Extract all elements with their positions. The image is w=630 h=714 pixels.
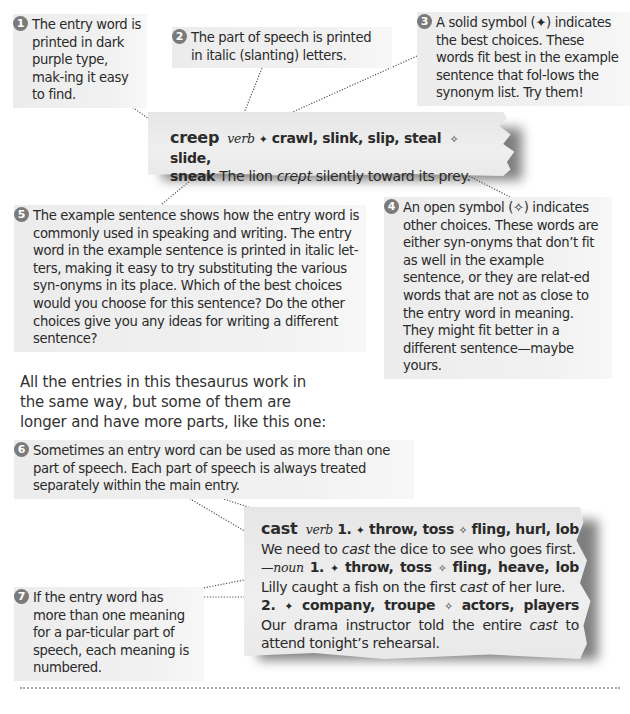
example-italic-word: cast: [342, 541, 370, 557]
part-of-speech: —noun: [261, 560, 304, 575]
sense-noun-1: —noun 1. ✦ throw, toss ✧ fling, heave, l…: [261, 558, 579, 596]
best-choices: throw, toss: [369, 521, 454, 537]
headword: creep: [170, 128, 219, 147]
solid-diamond-icon: ✦: [356, 524, 365, 537]
sense-number: 1.: [310, 559, 324, 575]
open-diamond-icon: ✧: [458, 524, 467, 537]
example-pre: The lion: [219, 168, 272, 184]
sense-verb-1: cast verb 1. ✦ throw, toss ✧ fling, hurl…: [261, 520, 579, 558]
number-badge-6: 6: [14, 442, 29, 457]
other-choices-cont: sneak: [170, 168, 215, 184]
number-badge-4: 4: [384, 199, 399, 214]
part-of-speech: verb: [306, 522, 333, 537]
other-choices: slide,: [170, 150, 211, 166]
callout-4: 4 An open symbol (✧) indicates other cho…: [384, 197, 612, 379]
number-badge-5: 5: [14, 207, 29, 222]
headword: cast: [261, 519, 297, 538]
solid-diamond-icon: ✦: [330, 562, 339, 575]
callout-2-text: The part of speech is printed in italic …: [172, 29, 386, 64]
number-badge-2: 2: [172, 29, 187, 44]
part-of-speech: verb: [227, 131, 254, 146]
number-badge-3: 3: [417, 14, 432, 29]
callout-5-text: The example sentence shows how the entry…: [14, 207, 360, 348]
other-choices: fling, heave, lob: [453, 559, 579, 575]
other-choices: actors, players: [462, 597, 579, 613]
callout-6: 6 Sometimes an entry word can be used as…: [14, 440, 414, 499]
example-post: silently toward its prey.: [316, 168, 471, 184]
dotted-divider: [20, 687, 620, 689]
open-diamond-icon: ✧: [450, 133, 459, 146]
callout-3-text: A solid symbol (✦) indicates the best ch…: [417, 14, 624, 102]
callout-4-text: An open symbol (✧) indicates other choic…: [384, 199, 606, 375]
number-badge-1: 1: [13, 16, 28, 31]
solid-diamond-icon: ✦: [284, 600, 293, 613]
example-pre: We need to: [261, 541, 338, 557]
example-post: of her lure.: [492, 579, 565, 595]
other-choices: fling, hurl, lob: [472, 521, 579, 537]
callout-1-text: The entry word is printed in dark purple…: [13, 16, 141, 104]
callout-5: 5 The example sentence shows how the ent…: [14, 205, 366, 352]
sense-number: 1.: [337, 521, 351, 537]
entry-creep: creep verb ✦ crawl, slink, slip, steal ✧…: [170, 129, 490, 185]
example-italic-word: crept: [277, 168, 312, 184]
number-badge-7: 7: [14, 589, 29, 604]
sense-noun-2: 2. ✦ company, troupe ✧ actors, players O…: [261, 596, 579, 652]
open-diamond-icon: ✧: [444, 600, 453, 613]
example-italic-word: cast: [530, 617, 558, 633]
solid-diamond-icon: ✦: [259, 133, 268, 146]
best-choices: crawl, slink, slip, steal: [272, 130, 441, 146]
best-choices: throw, toss: [345, 559, 432, 575]
callout-7-text: If the entry word has more than one mean…: [14, 589, 198, 677]
callout-2: 2 The part of speech is printed in itali…: [172, 27, 392, 68]
callout-7: 7 If the entry word has more than one me…: [14, 587, 204, 681]
callout-3: 3 A solid symbol (✦) indicates the best …: [417, 12, 630, 106]
example-italic-word: cast: [460, 579, 488, 595]
open-diamond-icon: ✧: [438, 562, 447, 575]
best-choices: company, troupe: [302, 597, 435, 613]
callout-1: 1 The entry word is printed in dark purp…: [13, 14, 147, 108]
example-pre: Our drama instructor told the entire: [261, 617, 522, 633]
example-post: the dice to see who goes first.: [374, 541, 576, 557]
intro-paragraph: All the entries in this thesaurus work i…: [20, 372, 330, 432]
sense-number: 2.: [261, 597, 275, 613]
callout-6-text: Sometimes an entry word can be used as m…: [14, 442, 408, 495]
example-pre: Lilly caught a fish on the first: [261, 579, 456, 595]
entry-cast: cast verb 1. ✦ throw, toss ✧ fling, hurl…: [261, 520, 579, 652]
